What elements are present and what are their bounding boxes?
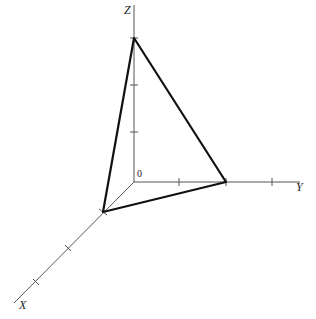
- z-axis-label: Z: [124, 3, 131, 17]
- diagram-canvas: Z Y X 0: [0, 0, 316, 319]
- plane-triangle: [103, 38, 226, 212]
- x-axis: [14, 182, 134, 303]
- x-axis-label: X: [18, 298, 27, 312]
- origin-label: 0: [137, 168, 142, 179]
- 3d-axes-diagram: Z Y X 0: [0, 0, 316, 319]
- y-axis-label: Y: [296, 180, 304, 194]
